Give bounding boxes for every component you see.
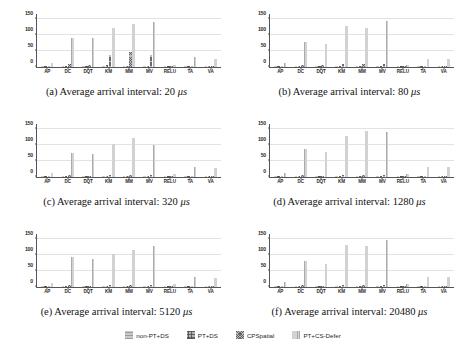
x-tick-label: RELU [164,69,176,74]
legend-label: CPSpatial [247,332,275,339]
y-tick-label: 50 [28,42,33,48]
axes-a: 050100150APDCDQTKMMMMVRELUTAVA [36,14,221,68]
bar [427,167,430,177]
chart-panel-c: 050100150APDCDQTKMMMMVRELUTAVA(c) Averag… [0,110,233,220]
y-tick-label: 0 [263,58,266,64]
legend-item-3: PT+CS-Defer [292,331,340,339]
x-tick-label: MV [146,179,153,184]
x-tick-label: VA [441,179,447,184]
bar-group-ta: TA [417,234,429,287]
caption-unit: μs [411,86,420,97]
bar [51,63,54,67]
panel-caption-b: (b) Average arrival interval: 80 μs [233,86,466,97]
bar-group-mv: MV [143,14,155,67]
y-tick-label: 50 [261,42,266,48]
bar-group-ta: TA [184,234,196,287]
bar-group-relu: RELU [164,14,176,67]
bar-group-dc: DC [295,14,307,67]
x-tick-label: DC [297,69,303,74]
bar [325,264,328,287]
y-tick-label: 150 [25,230,33,236]
axes-c: 050100150APDCDQTKMMMMVRELUTAVA [36,124,221,178]
bar-group-va: VA [205,234,217,287]
x-tick-label: DC [64,69,70,74]
x-tick-label: DC [297,289,303,294]
bar [194,277,197,287]
bar [365,246,368,287]
bar [386,240,389,287]
y-tick-label: 0 [30,168,33,174]
panel-caption-a: (a) Average arrival interval: 20 μs [0,86,233,97]
bar-group-mm: MM [123,124,135,177]
bar-group-mm: MM [356,14,368,67]
bar-groups: APDCDQTKMMMMVRELUTAVA [37,14,221,67]
x-tick-label: MV [379,289,386,294]
bar [304,42,307,67]
bar [345,245,348,287]
y-tick-label: 0 [30,278,33,284]
plot-area-f: 050100150APDCDQTKMMMMVRELUTAVA [233,220,466,304]
bar-group-dqt: DQT [315,14,327,67]
bar-groups: APDCDQTKMMMMVRELUTAVA [37,234,221,287]
x-tick-label: KM [105,69,112,74]
bar [406,65,409,67]
bar [71,38,74,67]
plot-area-b: 050100150APDCDQTKMMMMVRELUTAVA [233,0,466,84]
plot-area-e: 050100150APDCDQTKMMMMVRELUTAVA [0,220,233,304]
x-tick-label: AP [44,179,50,184]
bar [447,167,450,177]
x-tick-label: MV [379,69,386,74]
x-tick-label: RELU [397,69,409,74]
bar [325,152,328,177]
panel-caption-f: (f) Average arrival interval: 20480 μs [233,306,466,317]
bar-group-mv: MV [376,124,388,177]
bar-group-km: KM [335,234,347,287]
bar-group-mv: MV [376,234,388,287]
x-tick-label: RELU [397,179,409,184]
x-tick-label: RELU [164,179,176,184]
legend-swatch-icon [292,331,300,339]
x-tick-label: KM [338,179,345,184]
bar-group-relu: RELU [397,234,409,287]
bar-group-mm: MM [356,124,368,177]
bar-group-dc: DC [295,234,307,287]
caption-unit: μs [183,306,192,317]
panel-caption-c: (c) Average arrival interval: 320 μs [0,196,233,207]
bar-group-va: VA [205,14,217,67]
bar [132,24,135,67]
caption-text: (d) Average arrival interval: 1280 [273,196,416,207]
y-tick-label: 50 [28,262,33,268]
legend-label: PT+CS-Defer [303,332,340,339]
bar [194,57,197,67]
legend-label: PT+DS [198,332,218,339]
bar [132,138,135,177]
x-tick-label: TA [187,179,193,184]
caption-text: (b) Average arrival interval: 80 [279,86,411,97]
bar-group-ta: TA [184,14,196,67]
bar-group-ta: TA [417,124,429,177]
y-tick-label: 0 [263,168,266,174]
bar [427,277,430,287]
bar [284,173,287,177]
bar [173,65,176,67]
bar-group-dc: DC [295,124,307,177]
x-tick-label: MM [358,69,365,74]
bar [406,284,409,287]
x-tick-label: DC [64,179,70,184]
bar-group-ta: TA [417,14,429,67]
bar-group-ap: AP [274,14,286,67]
bar [112,144,115,177]
bar-group-mm: MM [123,14,135,67]
x-tick-label: TA [420,289,426,294]
y-tick-label: 150 [258,120,266,126]
x-tick-label: TA [187,289,193,294]
bar [51,173,54,177]
bar [214,59,217,67]
bar [304,261,307,287]
caption-unit: μs [416,196,425,207]
x-tick-label: RELU [397,289,409,294]
bar-group-km: KM [102,234,114,287]
bar-group-mv: MV [143,234,155,287]
bar [345,136,348,177]
legend-swatch-icon [236,331,244,339]
